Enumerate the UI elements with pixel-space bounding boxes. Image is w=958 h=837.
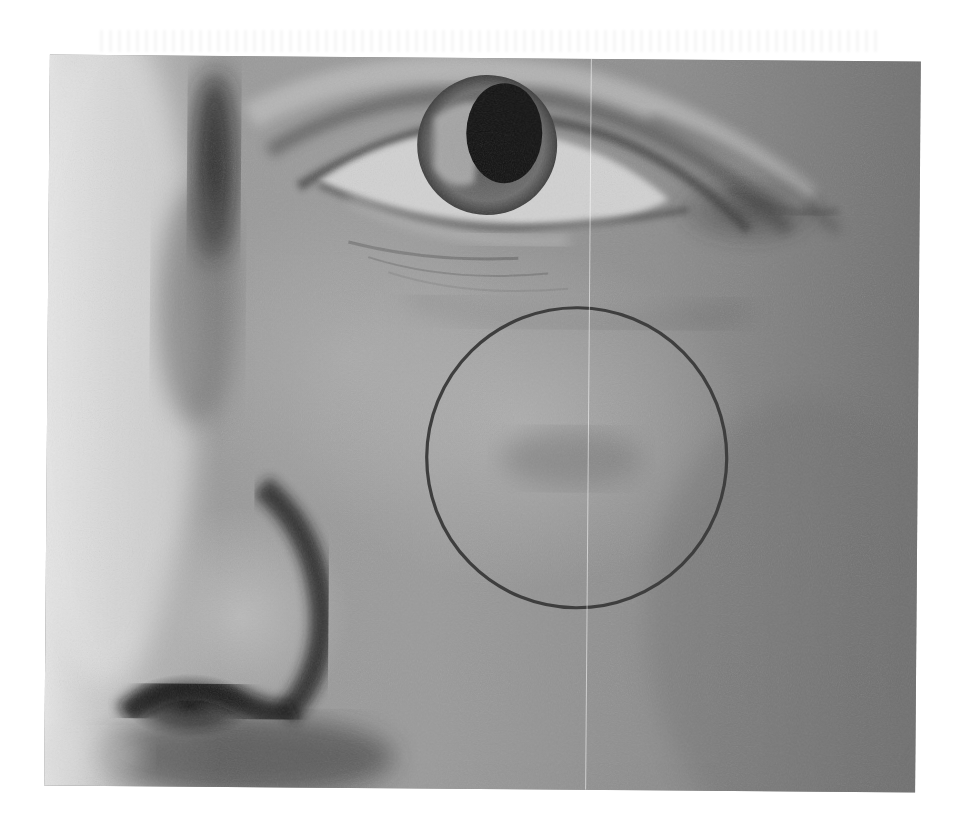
face-photo xyxy=(44,55,921,793)
page xyxy=(0,0,958,837)
photo-grain xyxy=(44,55,921,793)
print-bleed-through xyxy=(100,30,880,52)
face-photo-svg xyxy=(44,55,921,793)
